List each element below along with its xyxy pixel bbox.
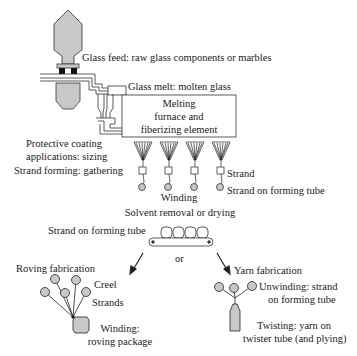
roving-fabrication-label: Roving fabrication <box>16 263 95 275</box>
creel-label: Creel <box>94 279 117 291</box>
bushings <box>134 142 230 191</box>
strand-on-tube-label: Strand on forming tube <box>227 185 325 197</box>
glass-melt-label: Glass melt: molten glass <box>128 81 231 93</box>
feed-pipe <box>40 74 126 95</box>
winding-label: Winding <box>122 192 236 204</box>
glass-feed-label: Glass feed: raw glass components or marb… <box>82 52 272 64</box>
drying-conveyor <box>149 227 213 246</box>
coating-label-1: Protective coating <box>26 138 102 150</box>
furnace-label-3: fiberizing element <box>122 124 236 136</box>
furnace-label-1: Melting <box>122 98 236 110</box>
strands-label: Strands <box>92 297 124 309</box>
unwinding-label-1: Unwinding: strand <box>259 281 337 293</box>
melt-pipes <box>96 94 122 134</box>
strand-label: Strand <box>227 168 254 180</box>
unwinding-label-2: on forming tube <box>268 294 336 306</box>
coating-label-2: applications: sizing <box>26 151 107 163</box>
conveyor-label: Strand on forming tube <box>48 225 146 237</box>
roving-winding-label-1: Winding: <box>80 323 160 335</box>
furnace-label-2: furnace and <box>122 111 236 123</box>
or-label: or <box>175 253 184 265</box>
strand-forming-label: Strand forming: gathering <box>14 165 123 177</box>
twisting-label-2: twister tube (and plying) <box>243 333 347 345</box>
twisting-label-1: Twisting: yarn on <box>257 320 331 332</box>
roving-winding-label-2: roving package <box>80 336 160 348</box>
yarn-twister <box>215 282 257 332</box>
glass-feed-hopper <box>54 10 82 74</box>
melt-chamber <box>56 83 80 109</box>
solvent-removal-label: Solvent removal or drying <box>100 207 260 219</box>
yarn-fabrication-label: Yarn fabrication <box>234 265 302 277</box>
